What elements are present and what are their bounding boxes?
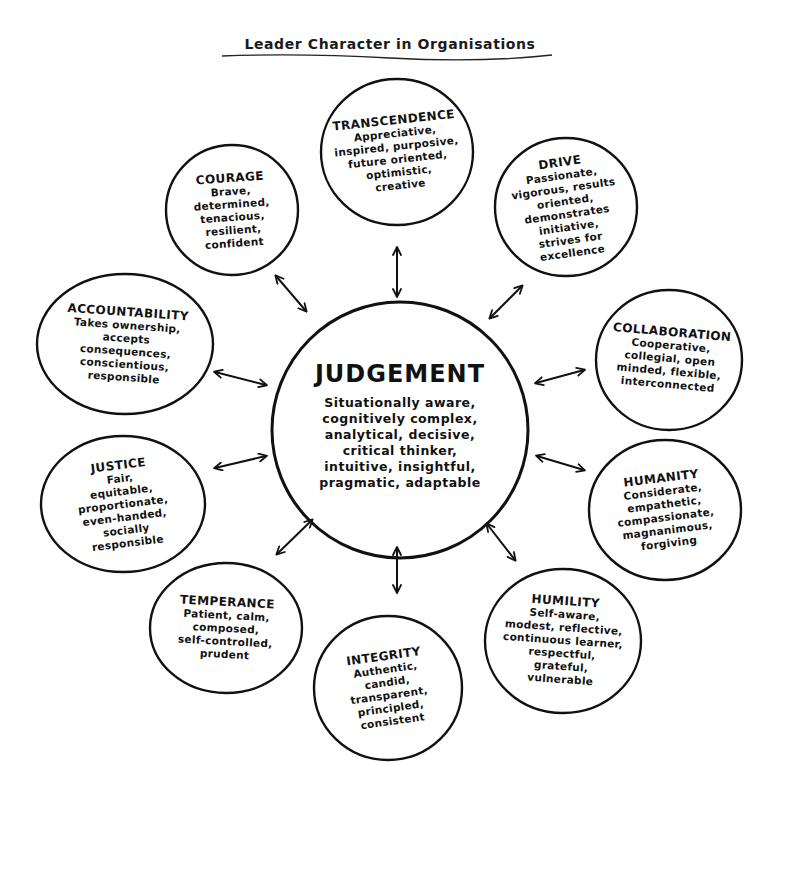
node-transcendence: TRANSCENDENCE Appreciative, inspired, pu… [314, 72, 480, 232]
node-justice: JUSTICE Fair, equitable, proportionate, … [37, 429, 210, 579]
node-collaboration: COLLABORATION Cooperative, collegial, op… [592, 284, 747, 432]
node-courage: COURAGE Brave, determined, tenacious, re… [164, 142, 301, 279]
node-description: Authentic, candid, transparent, principl… [346, 657, 432, 732]
double-arrow-icon [215, 372, 266, 385]
title-underline [222, 55, 552, 60]
double-arrow-icon [215, 456, 266, 468]
node-description: Patient, calm, composed, self-controlled… [177, 607, 274, 664]
node-accountability: ACCOUNTABILITY Takes ownership, accepts … [35, 270, 216, 418]
node-integrity: INTEGRITY Authentic, candid, transparent… [307, 609, 469, 768]
double-arrow-icon [537, 456, 584, 470]
node-humility: HUMILITY Self-aware, modest, reflective,… [481, 565, 644, 715]
node-description: Brave, determined, tenacious, resilient,… [192, 182, 272, 252]
node-description: Self-aware, modest, reflective, continuo… [500, 604, 625, 690]
node-description: Situationally aware, cognitively complex… [319, 395, 481, 491]
node-description: Fair, equitable, proportionate, even-han… [74, 467, 173, 555]
node-name: JUDGEMENT [315, 359, 485, 389]
node-description: Considerate, empathetic, compassionate, … [614, 479, 718, 555]
node-description: Appreciative, inspired, purposive, futur… [332, 121, 463, 199]
node-description: Takes ownership, accepts consequences, c… [70, 315, 181, 387]
node-description: Passionate, vigorous, results oriented, … [509, 162, 626, 267]
node-description: Cooperative, collegial, open minded, fle… [615, 335, 724, 396]
node-humanity: HUMANITY Considerate, empathetic, compas… [584, 434, 745, 587]
node-temperance: TEMPERANCE Patient, calm, composed, self… [149, 560, 303, 696]
node-drive: DRIVE Passionate, vigorous, results orie… [488, 131, 643, 283]
node-judgement: JUDGEMENT Situationally aware, cognitive… [275, 300, 525, 550]
double-arrow-icon [536, 370, 584, 383]
